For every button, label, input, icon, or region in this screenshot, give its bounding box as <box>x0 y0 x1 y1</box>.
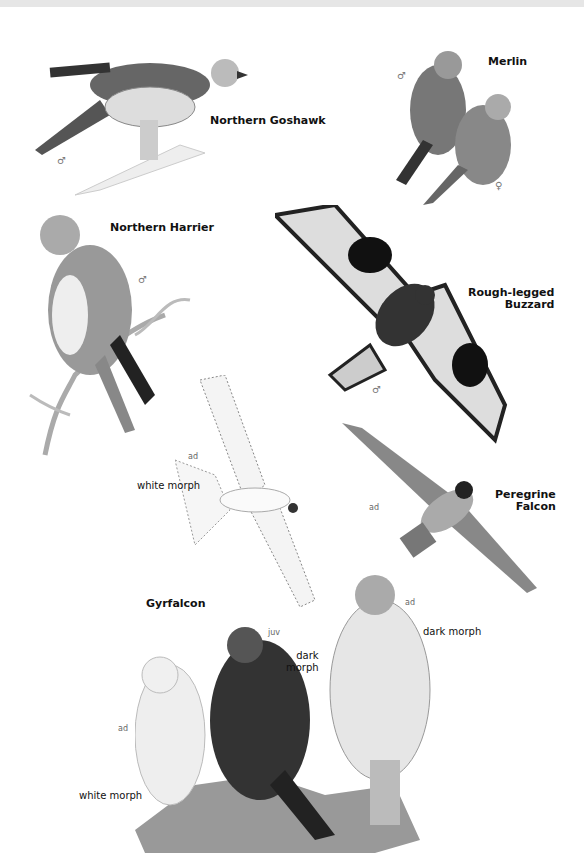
merlin-female-symbol: ♀ <box>495 180 502 191</box>
gyr-flight-morph: white morph <box>137 480 200 492</box>
northern-harrier-label: Northern Harrier <box>110 222 214 234</box>
gyr-flight-age: ad <box>188 452 198 461</box>
rough-legged-buzzard-label: Rough-legged Buzzard <box>468 287 554 311</box>
northern-goshawk-label: Northern Goshawk <box>210 115 326 127</box>
gyr-perched-white-age: ad <box>118 724 128 733</box>
peregrine-label-line2: Falcon <box>495 501 556 513</box>
gyr-juv-morph-line1: dark <box>276 650 319 662</box>
gyr-juv-morph-line2: morph <box>276 662 319 674</box>
peregrine-falcon-label: Peregrine Falcon <box>495 489 556 513</box>
goshawk-male-symbol: ♂ <box>57 155 66 166</box>
harrier-male-symbol: ♂ <box>138 274 147 285</box>
merlin-label: Merlin <box>488 56 527 68</box>
peregrine-age: ad <box>369 503 379 512</box>
gyr-perched-dark-morph: dark morph <box>423 626 481 638</box>
gyr-perched-juv-morph: dark morph <box>276 650 319 674</box>
gyr-perched-juv-age: juv <box>268 628 280 637</box>
gyrfalcon-perched-group-illustration <box>135 570 435 853</box>
rough-legged-label-line2: Buzzard <box>468 299 554 311</box>
top-band <box>0 0 584 7</box>
merlin-male-symbol: ♂ <box>397 70 406 81</box>
northern-harrier-illustration <box>25 205 195 460</box>
gyr-perched-dark-age: ad <box>405 598 415 607</box>
gyr-perched-white-morph: white morph <box>79 790 142 802</box>
buzzard-male-symbol: ♂ <box>372 384 381 395</box>
